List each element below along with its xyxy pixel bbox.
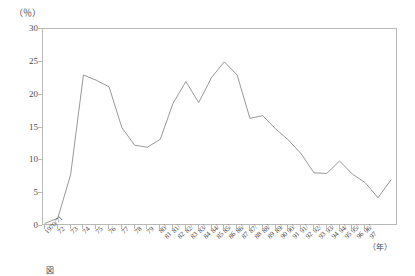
y-axis-tick-labels: 051015202530 xyxy=(0,28,38,225)
x-axis-unit-label: （年） xyxy=(368,243,392,253)
chart-figure: （％） 051015202530 1970/717273747576777879… xyxy=(0,0,415,276)
figure-caption: 図 xyxy=(46,265,386,276)
plot-area xyxy=(42,28,397,225)
caption-text xyxy=(58,266,284,275)
y-axis-unit-label: （％） xyxy=(14,8,41,19)
y-axis-tick-label: 15 xyxy=(4,123,38,132)
y-axis-tick-label: 0 xyxy=(4,221,38,230)
data-line xyxy=(45,62,391,224)
y-axis-tick-label: 5 xyxy=(4,188,38,197)
x-axis-tick-labels: 1970/71727374757677787980/ 8181/ 8282/ 8… xyxy=(42,230,407,262)
y-axis-tick-label: 25 xyxy=(4,57,38,66)
y-axis-tick-label: 30 xyxy=(4,24,38,33)
caption-marker: 図 xyxy=(46,265,54,276)
y-axis-tick-label: 10 xyxy=(4,155,38,164)
y-axis-tick-label: 20 xyxy=(4,90,38,99)
line-series-svg xyxy=(43,29,398,226)
